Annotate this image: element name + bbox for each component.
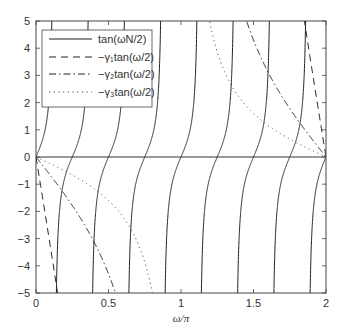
chart: 00.511.52 −5−4−3−2−1012345 ω/π tan(ωN/2)… [0,0,345,333]
x-tick-label: 1 [178,297,184,309]
series-dashdot-curve [36,157,124,320]
x-tick-label: 0.5 [101,297,116,309]
series-dashdot-curve [238,0,326,157]
legend-label: tan(ωN/2) [98,33,146,45]
series-dotted-curve [36,157,157,320]
y-tick-label: 3 [24,69,30,81]
y-tick-label: 0 [24,151,30,163]
x-tick-labels: 00.511.52 [33,297,329,309]
y-tick-label: −5 [17,287,30,299]
y-tick-labels: −5−4−3−2−1012345 [17,15,30,299]
y-tick-label: −4 [17,260,30,272]
x-tick-label: 0 [33,297,39,309]
x-tick-label: 2 [323,297,329,309]
y-tick-label: 4 [24,42,30,54]
series-solid-curve [310,154,328,313]
y-tick-label: −1 [17,178,30,190]
y-tick-label: −2 [17,205,30,217]
y-tick-label: 5 [24,15,30,27]
y-tick-label: 2 [24,97,30,109]
x-tick-label: 1.5 [246,297,261,309]
legend-label: −γ₂tan(ω/2) [98,68,155,80]
x-axis-label: ω/π [173,312,190,324]
legend-label: −γ₁tan(ω/2) [98,51,154,63]
legend-label: −γ₃tan(ω/2) [98,86,155,98]
y-tick-label: −3 [17,233,30,245]
y-tick-label: 1 [24,124,30,136]
series-dotted-curve [205,0,326,157]
legend: tan(ωN/2) −γ₁tan(ω/2) −γ₂tan(ω/2) −γ₃tan… [42,30,155,107]
